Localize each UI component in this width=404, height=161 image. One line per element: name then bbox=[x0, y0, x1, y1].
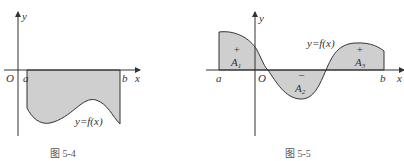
origin-label: O bbox=[6, 72, 14, 84]
diagram-canvas: y O a b x y=f(x) 图 5-4 y O a b x y=f(x) … bbox=[0, 0, 404, 161]
region-a3-sign: + bbox=[356, 43, 363, 55]
b-label: b bbox=[380, 72, 386, 84]
curve-label: y=f(x) bbox=[306, 37, 335, 50]
a-label: a bbox=[23, 72, 29, 84]
b-label: b bbox=[122, 72, 128, 84]
y-axis-label: y bbox=[21, 10, 27, 22]
origin-label: O bbox=[258, 72, 266, 84]
shaded-region bbox=[27, 70, 120, 124]
x-axis-label: x bbox=[134, 72, 140, 84]
x-axis-label: x bbox=[396, 72, 402, 84]
curve-label: y=f(x) bbox=[74, 115, 103, 128]
a-label: a bbox=[216, 72, 222, 84]
figure-5-5: y O a b x y=f(x) + A1 − A2 + A3 图 5-5 bbox=[206, 12, 404, 159]
caption: 图 5-4 bbox=[50, 148, 76, 159]
y-axis-label: y bbox=[258, 12, 264, 24]
region-a1-sign: + bbox=[233, 43, 240, 55]
region-a2-sign: − bbox=[298, 69, 305, 81]
shaded-region bbox=[219, 32, 268, 70]
figure-5-4: y O a b x y=f(x) 图 5-4 bbox=[4, 10, 140, 159]
caption: 图 5-5 bbox=[285, 148, 311, 159]
